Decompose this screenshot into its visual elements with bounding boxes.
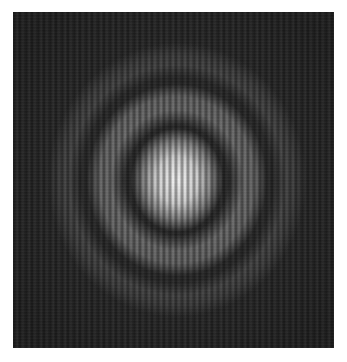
vignette — [13, 12, 334, 348]
interference-pattern-image — [13, 12, 334, 348]
